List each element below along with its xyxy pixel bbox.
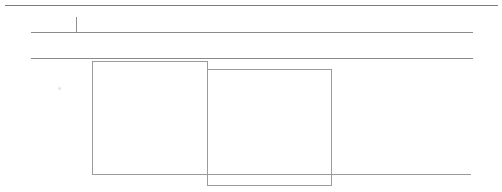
second-rule — [31, 32, 473, 33]
wireframe-canvas — [0, 0, 502, 192]
third-rule — [31, 58, 473, 59]
artifact-speck — [58, 87, 61, 90]
left-panel[interactable] — [92, 61, 208, 175]
top-rule — [5, 5, 498, 6]
vertical-tick-mark — [76, 17, 77, 33]
middle-panel[interactable] — [207, 69, 332, 186]
